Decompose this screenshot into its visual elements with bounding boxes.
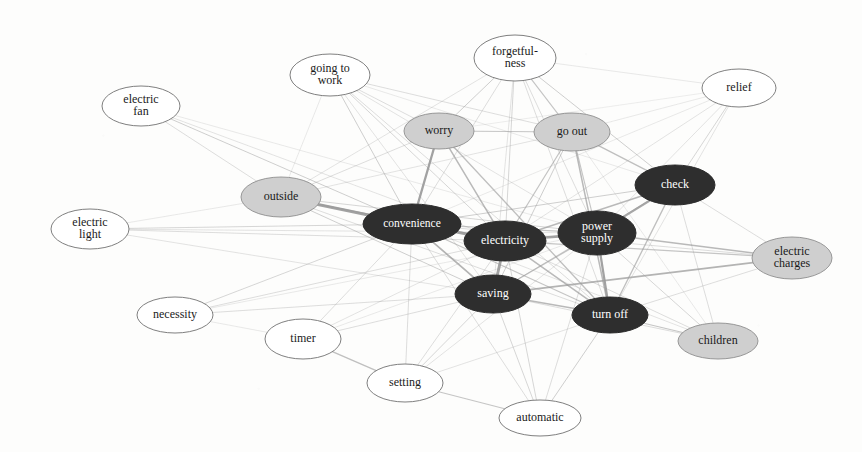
graph-edge bbox=[449, 148, 493, 222]
graph-edge bbox=[439, 392, 505, 409]
graph-node-electric-light[interactable]: electriclight bbox=[51, 209, 129, 249]
graph-edge bbox=[529, 300, 575, 308]
graph-node-convenience[interactable]: convenience bbox=[363, 204, 461, 244]
graph-node-electric-charges[interactable]: electriccharges bbox=[752, 237, 832, 279]
graph-edge bbox=[528, 257, 589, 300]
node-label: worry bbox=[425, 123, 454, 137]
graph-edge bbox=[289, 96, 322, 178]
node-label: go out bbox=[557, 124, 588, 138]
graph-edge bbox=[127, 203, 243, 222]
graph-node-turn-off[interactable]: turn off bbox=[572, 297, 648, 333]
graph-node-saving[interactable]: saving bbox=[455, 275, 531, 313]
graph-node-power-supply[interactable]: powersupply bbox=[558, 211, 636, 255]
graph-edge bbox=[210, 322, 267, 333]
graph-edge bbox=[555, 63, 703, 83]
node-label: children bbox=[698, 333, 737, 347]
network-graph-svg: electricfangoing toworkforgetful-nessrel… bbox=[0, 0, 862, 452]
node-label: necessity bbox=[153, 307, 197, 321]
graph-node-automatic[interactable]: automatic bbox=[499, 400, 581, 436]
node-label: convenience bbox=[383, 217, 440, 229]
graph-node-go-out[interactable]: go out bbox=[534, 113, 610, 151]
graph-edge bbox=[205, 238, 377, 304]
graph-node-electric-fan[interactable]: electricfan bbox=[102, 86, 180, 126]
graph-edge bbox=[531, 79, 558, 114]
node-label: relief bbox=[726, 80, 751, 94]
graph-edge bbox=[688, 106, 728, 166]
graph-edge bbox=[644, 323, 683, 332]
graph-edge bbox=[338, 302, 459, 331]
graph-node-timer[interactable]: timer bbox=[265, 319, 341, 359]
graph-edge bbox=[332, 352, 376, 371]
node-label: automatic bbox=[516, 410, 563, 424]
graph-edge bbox=[577, 151, 592, 211]
graph-edge bbox=[312, 142, 412, 184]
graph-edge bbox=[213, 297, 456, 313]
node-label: check bbox=[661, 177, 689, 191]
graph-edge bbox=[165, 122, 256, 181]
graph-edge bbox=[422, 311, 476, 366]
graph-edge bbox=[599, 146, 648, 171]
graph-node-children[interactable]: children bbox=[678, 323, 758, 359]
graph-node-check[interactable]: check bbox=[635, 165, 715, 205]
graph-node-outside[interactable]: outside bbox=[241, 177, 321, 217]
graph-node-necessity[interactable]: necessity bbox=[137, 297, 213, 333]
graph-node-going-to-work[interactable]: going towork bbox=[290, 54, 370, 96]
node-layer: electricfangoing toworkforgetful-nessrel… bbox=[51, 35, 832, 436]
graph-edge bbox=[681, 205, 714, 323]
node-label: outside bbox=[264, 189, 299, 203]
graph-edge bbox=[320, 243, 394, 321]
graph-edge bbox=[517, 150, 561, 222]
node-label: timer bbox=[290, 331, 315, 345]
network-graph-canvas: electricfangoing toworkforgetful-nessrel… bbox=[0, 0, 862, 452]
node-label: powersupply bbox=[581, 219, 613, 246]
node-label: electricity bbox=[481, 233, 529, 247]
node-label: electriccharges bbox=[774, 244, 811, 271]
node-label: turn off bbox=[592, 307, 628, 321]
graph-edge bbox=[500, 313, 533, 401]
graph-edge bbox=[506, 81, 514, 221]
graph-node-forgetfulness[interactable]: forgetful-ness bbox=[474, 35, 556, 81]
graph-edge bbox=[700, 201, 766, 242]
graph-node-worry[interactable]: worry bbox=[404, 113, 474, 149]
graph-edge bbox=[530, 263, 753, 290]
graph-edge bbox=[552, 332, 599, 401]
graph-node-setting[interactable]: setting bbox=[367, 364, 443, 402]
graph-node-electricity[interactable]: electricity bbox=[464, 221, 546, 261]
graph-node-relief[interactable]: relief bbox=[702, 69, 776, 107]
node-label: setting bbox=[389, 375, 421, 389]
node-label: saving bbox=[477, 286, 508, 300]
graph-edge bbox=[129, 225, 363, 229]
graph-edge bbox=[359, 90, 415, 119]
